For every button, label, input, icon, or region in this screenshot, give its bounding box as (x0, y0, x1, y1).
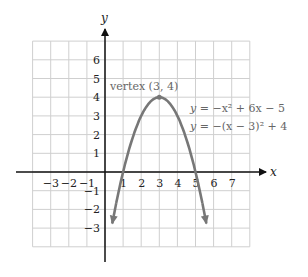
eq1-rhs: = −x² + 6x − 5 (196, 102, 285, 115)
vertex-point (157, 95, 162, 100)
y-tick-label: 5 (93, 73, 100, 86)
x-tick-label: 4 (174, 177, 181, 190)
equation-vertex-form: y = −(x − 3)² + 4 (189, 120, 287, 133)
x-axis-label: x (270, 165, 277, 179)
y-tick-label: −2 (84, 203, 100, 216)
x-tick-label: 7 (229, 177, 236, 190)
y-tick-label: 1 (93, 147, 100, 160)
x-tick-label: 6 (211, 177, 218, 190)
x-tick-label: −2 (61, 177, 77, 190)
x-tick-label: −3 (43, 177, 59, 190)
x-tick-label: 2 (138, 177, 145, 190)
grid (33, 41, 250, 247)
y-tick-label: 3 (93, 110, 100, 123)
x-tick-label: 3 (156, 177, 163, 190)
y-tick-label: 2 (93, 129, 100, 142)
eq2-rhs: = −(x − 3)² + 4 (196, 120, 287, 133)
vertex-label: vertex (3, 4) (109, 80, 178, 93)
y-tick-label: −1 (84, 185, 100, 198)
y-tick-label: −3 (84, 222, 100, 235)
curve-arrow-left (112, 203, 116, 223)
y-axis-label: y (100, 11, 108, 25)
equation-standard-form: y = −x² + 6x − 5 (189, 102, 285, 115)
y-tick-label: 4 (93, 91, 100, 104)
parabola-chart: −3−2−11234567654321−1−2−3 x y vertex (3,… (0, 0, 308, 277)
curve-arrow-right (202, 203, 206, 223)
y-tick-label: 6 (93, 54, 100, 67)
